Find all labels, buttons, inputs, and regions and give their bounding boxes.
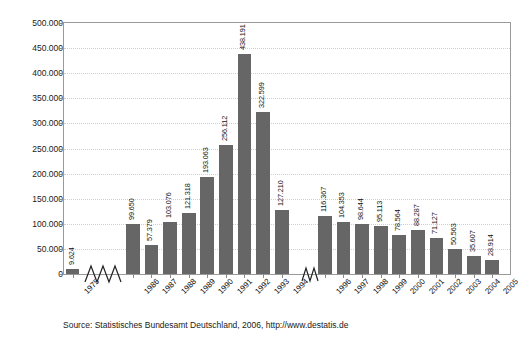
bar-value-label: 50.563 (449, 223, 458, 245)
bar-value-label: 9.624 (67, 247, 76, 265)
x-axis-tick-label: 1986 (142, 277, 161, 296)
bar[interactable] (219, 145, 233, 274)
bar-value-label: 116.367 (319, 186, 328, 211)
y-axis-tick-label: 200.000 (5, 169, 63, 179)
bar-value-label: 88.287 (412, 204, 421, 226)
bar-slot: 50.563 (448, 23, 462, 274)
bar-value-label: 193.063 (201, 147, 210, 173)
x-axis-tick-label: 1991 (235, 277, 254, 296)
y-axis-tick-label: 100.000 (5, 219, 63, 229)
bar-value-label: 98.644 (356, 199, 365, 221)
bar[interactable] (256, 112, 270, 274)
bar-value-label: 95.113 (375, 201, 384, 222)
axis-break-zigzag-right (300, 264, 320, 284)
bar[interactable] (448, 249, 462, 274)
bar-slot: 57.379 (145, 23, 159, 274)
bar-value-label: 78.564 (393, 209, 402, 231)
x-axis-tick-label: 1990 (216, 277, 235, 296)
bar-value-label: 103.076 (164, 193, 173, 219)
bar-slot: 88.287 (411, 23, 425, 274)
x-axis-tick-label: 1997 (353, 277, 372, 296)
y-axis-tick-label: 150.000 (5, 194, 63, 204)
x-axis-tick-label: 1988 (179, 277, 198, 296)
bar[interactable] (318, 216, 332, 274)
y-axis-tick-label: 450.000 (5, 43, 63, 53)
y-axis: 050.000100.000150.000200.000250.000300.0… (0, 22, 63, 275)
x-axis-tick-label: 2001 (427, 277, 446, 296)
y-axis-tick-label: 400.000 (5, 68, 63, 78)
chart-container: 050.000100.000150.000200.000250.000300.0… (0, 0, 528, 338)
bar-slot: 127.210 (275, 23, 289, 274)
x-axis-tick-label: 1987 (161, 277, 180, 296)
x-axis-tick-label: 2002 (446, 277, 465, 296)
bar-value-label: 71.127 (431, 213, 440, 235)
y-axis-tick-label: 0 (5, 269, 63, 279)
bar-value-label: 35.607 (468, 230, 477, 252)
bar[interactable] (467, 256, 481, 274)
bar[interactable] (374, 226, 388, 274)
x-axis-labels: 1975198619871988198919901991199219931994… (64, 277, 510, 317)
bar-slot: 78.564 (392, 23, 406, 274)
bar-value-label: 127.210 (276, 180, 285, 206)
bar[interactable] (126, 224, 140, 274)
x-axis-tick-label: 2003 (464, 277, 483, 296)
y-axis-tick-label: 250.000 (5, 144, 63, 154)
bar-slot: 95.113 (374, 23, 388, 274)
bar-slot: 438.191 (238, 23, 252, 274)
bar[interactable] (355, 224, 369, 274)
bar-slot: 322.599 (256, 23, 270, 274)
bar[interactable] (238, 54, 252, 274)
bar-slot: 103.076 (163, 23, 177, 274)
bar-slot: 98.644 (355, 23, 369, 274)
bar[interactable] (163, 222, 177, 274)
bar-slot: 193.063 (200, 23, 214, 274)
x-axis-tick-label: 2004 (483, 277, 502, 296)
x-axis-tick-label: 1989 (198, 277, 217, 296)
x-axis-tick-label: 1998 (371, 277, 390, 296)
bar[interactable] (485, 260, 499, 275)
bar-slot: 71.127 (430, 23, 444, 274)
y-axis-tick-label: 300.000 (5, 118, 63, 128)
y-axis-tick-label: 500.000 (5, 18, 63, 28)
y-axis-tick-label: 50.000 (5, 244, 63, 254)
bar-slot: 99.650 (126, 23, 140, 274)
bar-slot: 121.318 (182, 23, 196, 274)
bar-value-label: 104.353 (338, 192, 347, 218)
x-axis-tick-label: 1992 (254, 277, 273, 296)
bar-slot: 116.367 (318, 23, 332, 274)
bar[interactable] (275, 210, 289, 274)
bar-value-label: 99.650 (127, 198, 136, 220)
bar[interactable] (200, 177, 214, 274)
bar-value-label: 322.599 (257, 82, 266, 108)
bar[interactable] (430, 238, 444, 274)
bar-value-label: 121.318 (183, 183, 192, 209)
bar-value-label: 57.379 (146, 219, 155, 241)
bar-slot: 35.607 (467, 23, 481, 274)
x-axis-tick-label: 2005 (501, 277, 520, 296)
y-axis-tick-label: 350.000 (5, 93, 63, 103)
bar[interactable] (145, 245, 159, 274)
x-axis-tick-label: 1996 (334, 277, 353, 296)
source-caption: Source: Statistisches Bundesamt Deutschl… (63, 320, 348, 330)
bar[interactable] (337, 222, 351, 274)
bar[interactable] (411, 230, 425, 274)
x-axis-tick-label: 2000 (408, 277, 427, 296)
bar-value-label: 256.112 (220, 116, 229, 141)
bar[interactable] (182, 213, 196, 274)
bar-slot: 256.112 (219, 23, 233, 274)
bar-slot: 104.353 (337, 23, 351, 274)
bar-series: 9.62499.65057.379103.076121.318193.06325… (64, 23, 510, 274)
bar-value-label: 28.914 (486, 234, 495, 256)
x-axis-tick-label: 1993 (272, 277, 291, 296)
axis-break-zigzag-left (84, 262, 126, 284)
bar-slot: 9.624 (66, 23, 79, 274)
bar[interactable] (392, 235, 406, 274)
x-axis-tick-label: 1999 (390, 277, 409, 296)
bar-value-label: 438.191 (239, 24, 248, 50)
bar-slot: 28.914 (485, 23, 499, 274)
